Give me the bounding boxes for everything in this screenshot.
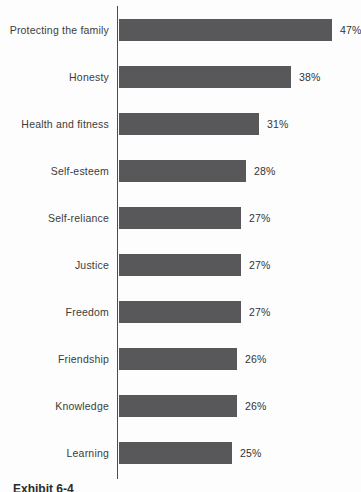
category-label: Self-esteem (0, 165, 118, 177)
value-label: 28% (254, 165, 276, 177)
value-label: 25% (240, 447, 262, 459)
chart-row: Knowledge26% (0, 382, 361, 429)
bar-track: 26% (118, 395, 361, 417)
category-label: Friendship (0, 353, 118, 365)
chart-row: Friendship26% (0, 335, 361, 382)
bar (119, 301, 241, 323)
value-label: 26% (245, 353, 267, 365)
bar-track: 27% (118, 301, 361, 323)
bar-track: 26% (118, 348, 361, 370)
bar (119, 207, 241, 229)
chart-row: Freedom27% (0, 288, 361, 335)
category-label: Honesty (0, 71, 118, 83)
bar-track: 27% (118, 254, 361, 276)
value-label: 27% (249, 212, 271, 224)
category-label: Protecting the family (0, 24, 118, 36)
bar-track: 47% (118, 19, 361, 41)
bar (119, 395, 237, 417)
bar (119, 160, 246, 182)
bar (119, 254, 241, 276)
value-label: 38% (299, 71, 321, 83)
category-label: Freedom (0, 306, 118, 318)
value-label: 47% (340, 24, 361, 36)
chart-row: Self-reliance27% (0, 194, 361, 241)
bar-track: 28% (118, 160, 361, 182)
chart-row: Protecting the family47% (0, 6, 361, 53)
bar (119, 19, 332, 41)
chart-row: Health and fitness31% (0, 100, 361, 147)
bar-track: 25% (118, 442, 361, 464)
category-label: Self-reliance (0, 212, 118, 224)
bar-track: 27% (118, 207, 361, 229)
chart-row: Honesty38% (0, 53, 361, 100)
category-label: Justice (0, 259, 118, 271)
category-label: Health and fitness (0, 118, 118, 130)
chart-page: Protecting the family47%Honesty38%Health… (0, 0, 361, 492)
chart-row: Learning25% (0, 429, 361, 476)
category-label: Learning (0, 447, 118, 459)
bar (119, 66, 291, 88)
bar-track: 38% (118, 66, 361, 88)
bar-chart: Protecting the family47%Honesty38%Health… (0, 6, 361, 476)
value-label: 27% (249, 306, 271, 318)
bar (119, 442, 232, 464)
chart-row: Self-esteem28% (0, 147, 361, 194)
value-label: 31% (267, 118, 289, 130)
category-label: Knowledge (0, 400, 118, 412)
bar (119, 113, 259, 135)
exhibit-caption: Exhibit 6-4 (13, 482, 74, 492)
chart-row: Justice27% (0, 241, 361, 288)
value-label: 27% (249, 259, 271, 271)
bar (119, 348, 237, 370)
bar-track: 31% (118, 113, 361, 135)
value-label: 26% (245, 400, 267, 412)
